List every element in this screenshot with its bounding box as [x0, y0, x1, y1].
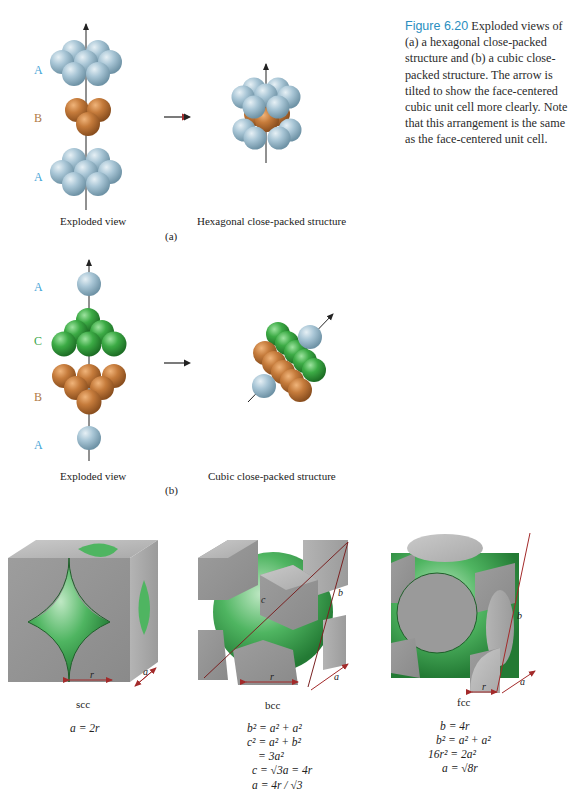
scc-label: scc [76, 698, 90, 710]
bcc-label: bcc [265, 699, 280, 711]
bcc-equation-2: c² = a² + b² [247, 736, 301, 750]
fcc-equation-1: b = 4r [440, 720, 470, 734]
svg-text:r: r [90, 669, 94, 680]
scc-unit-cell: r a [8, 540, 158, 690]
svg-text:c: c [261, 594, 266, 605]
fcc-label: fcc [457, 696, 470, 708]
bcc-equation-1: b² = a² + a² [247, 722, 302, 736]
transform-arrow-a [163, 112, 193, 122]
caption-text: Exploded views of (a) a hexagonal close-… [405, 19, 567, 146]
scc-equation-1: a = 2r [70, 722, 100, 736]
ccp-exploded-diagram [40, 258, 140, 463]
panel-a-left-caption: Exploded view [60, 215, 126, 227]
fcc-unit-cell: b r a [385, 543, 535, 693]
svg-text:a: a [334, 671, 339, 682]
fcc-equation-2: b² = a² + a² [436, 734, 491, 748]
panel-a-right-caption: Hexagonal close-packed structure [197, 215, 346, 227]
hcp-structure-diagram [222, 60, 312, 165]
svg-text:r: r [270, 671, 274, 682]
figure-caption: Figure 6.20 Exploded views of (a) a hexa… [405, 18, 573, 148]
ccp-structure-diagram [225, 310, 345, 410]
bcc-equation-5: a = 4r / √3 [252, 779, 303, 793]
fcc-equation-4: a = √8r [442, 762, 478, 776]
panel-b-right-caption: Cubic close-packed structure [208, 470, 336, 482]
panel-a-label: (a) [165, 230, 177, 242]
panel-b-left-caption: Exploded view [60, 470, 126, 482]
fcc-equation-3: 16r² = 2a² [428, 748, 476, 762]
svg-text:b: b [517, 610, 522, 621]
svg-text:b: b [338, 587, 343, 598]
panel-b-label: (b) [165, 484, 178, 496]
bcc-equation-3: = 3a² [258, 750, 284, 764]
bcc-unit-cell: c b r a [198, 540, 358, 690]
svg-text:a: a [520, 676, 525, 687]
transform-arrow-b [163, 358, 193, 368]
svg-text:a: a [143, 666, 148, 677]
hcp-exploded-diagram [40, 20, 140, 215]
bcc-equation-4: c = √3a = 4r [252, 764, 312, 778]
svg-text:r: r [482, 681, 486, 692]
figure-label: Figure 6.20 [405, 19, 468, 33]
